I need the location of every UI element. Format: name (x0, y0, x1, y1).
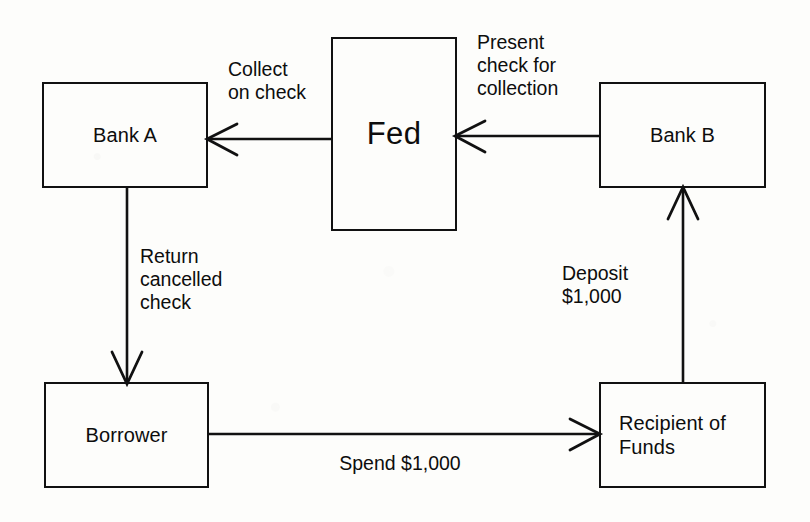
node-recipient[interactable]: Recipient of Funds (599, 382, 766, 488)
node-borrower[interactable]: Borrower (44, 382, 209, 488)
node-bank-b[interactable]: Bank B (599, 82, 766, 188)
node-borrower-label: Borrower (46, 423, 207, 447)
connector-bank-a-to-borrower (112, 188, 142, 384)
edge-label-bank-a-to-borrower: Return cancelled check (140, 245, 222, 314)
edge-label-fed-to-bank-a: Collect on check (228, 58, 306, 104)
node-fed[interactable]: Fed (331, 37, 457, 231)
connector-recipient-to-bank-b (668, 187, 698, 382)
node-fed-label: Fed (333, 115, 455, 153)
node-bank-a-label: Bank A (44, 123, 206, 147)
connector-fed-to-bank-a (207, 124, 331, 155)
connector-borrower-to-recipient (209, 419, 600, 450)
node-bank-a[interactable]: Bank A (42, 82, 208, 188)
node-recipient-label: Recipient of Funds (601, 411, 764, 460)
node-bank-b-label: Bank B (601, 123, 764, 147)
connector-bank-b-to-fed (455, 121, 599, 152)
edge-label-bank-b-to-fed: Present check for collection (477, 31, 558, 100)
diagram-canvas: Bank A Fed Bank B Borrower Recipient of … (0, 0, 810, 522)
edge-label-borrower-to-recipient: Spend $1,000 (325, 452, 475, 475)
edge-label-recipient-to-bank-b: Deposit $1,000 (562, 262, 628, 308)
